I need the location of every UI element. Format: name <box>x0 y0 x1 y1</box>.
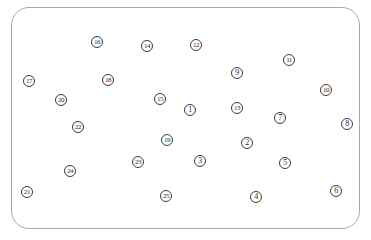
circled-number-17: 17 <box>23 75 35 87</box>
circled-number-2: 2 <box>241 137 253 149</box>
circled-number-12: 12 <box>190 39 202 51</box>
circled-number-21: 21 <box>21 186 33 198</box>
circled-number-14: 14 <box>141 40 153 52</box>
circled-number-23: 23 <box>132 156 144 168</box>
circled-number-3: 3 <box>194 155 206 167</box>
circled-number-15: 15 <box>154 93 166 105</box>
circled-number-13: 13 <box>231 102 243 114</box>
circled-number-5: 5 <box>279 157 291 169</box>
circled-number-1: 1 <box>184 104 196 116</box>
circled-number-20: 20 <box>55 94 67 106</box>
circled-number-22: 22 <box>72 121 84 133</box>
circled-number-6: 6 <box>330 185 342 197</box>
circled-number-16: 16 <box>91 36 103 48</box>
circled-number-25: 25 <box>160 190 172 202</box>
circled-number-4: 4 <box>250 191 262 203</box>
circled-number-11: 11 <box>283 54 295 66</box>
circled-number-10: 10 <box>320 84 332 96</box>
circled-number-9: 9 <box>231 67 243 79</box>
circled-number-7: 7 <box>274 112 286 124</box>
circled-number-8: 8 <box>341 118 353 130</box>
circled-number-18: 18 <box>102 74 114 86</box>
circled-number-19: 19 <box>161 134 173 146</box>
diagram-frame <box>11 7 360 229</box>
circled-number-24: 24 <box>64 165 76 177</box>
